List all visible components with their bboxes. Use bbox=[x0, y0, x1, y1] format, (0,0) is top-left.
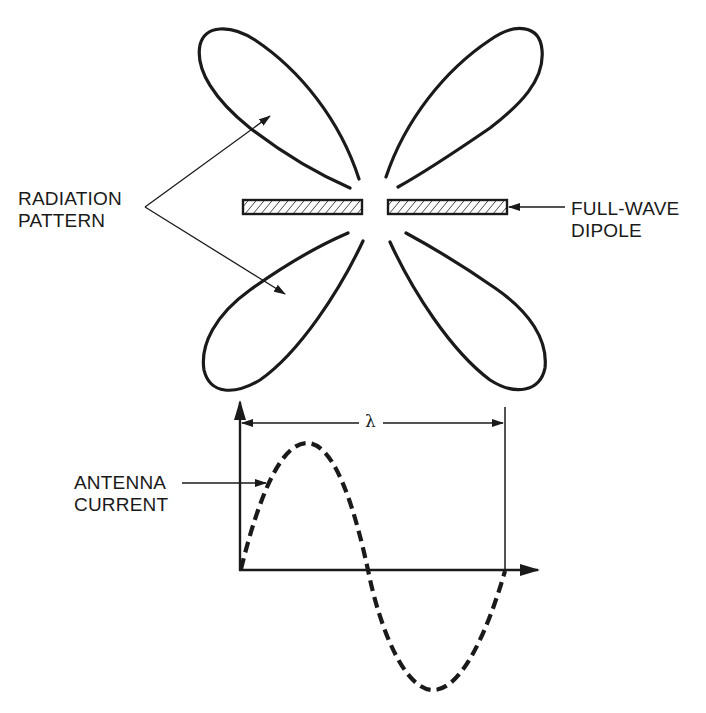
current-axes bbox=[239, 402, 538, 571]
antenna-current-line2: CURRENT bbox=[74, 494, 168, 516]
dipole-line1: FULL-WAVE bbox=[571, 198, 679, 220]
lobe-upper-right bbox=[386, 29, 542, 187]
dipole-label: FULL-WAVE DIPOLE bbox=[571, 198, 679, 242]
lobe-lower-left bbox=[203, 233, 363, 390]
dipole-left-segment bbox=[243, 200, 362, 214]
lobe-upper-left bbox=[199, 29, 359, 188]
diagram-canvas: RADIATION PATTERN FULL-WAVE DIPOLE ANTEN… bbox=[0, 0, 706, 713]
diagram-svg bbox=[0, 0, 706, 713]
wavelength-symbol: λ bbox=[359, 411, 382, 431]
antenna-current-wave bbox=[241, 443, 505, 690]
lobe-lower-right bbox=[390, 233, 545, 390]
antenna-current-line1: ANTENNA bbox=[74, 472, 168, 494]
dipole-right-segment bbox=[388, 200, 507, 214]
radiation-pattern-line2: PATTERN bbox=[18, 210, 122, 232]
radiation-leader-lower bbox=[145, 207, 285, 294]
antenna-current-label: ANTENNA CURRENT bbox=[74, 472, 168, 516]
dipole bbox=[243, 200, 507, 214]
radiation-pattern-label: RADIATION PATTERN bbox=[18, 188, 122, 232]
radiation-pattern-line1: RADIATION bbox=[18, 188, 122, 210]
radiation-leader-upper bbox=[145, 116, 270, 207]
dipole-line2: DIPOLE bbox=[571, 220, 679, 242]
